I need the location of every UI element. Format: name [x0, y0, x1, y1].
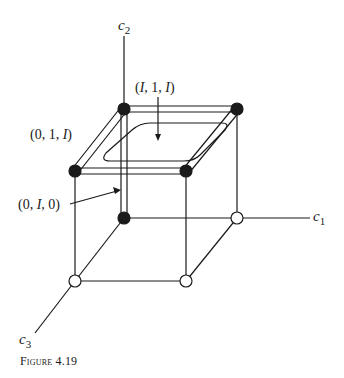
double-edge-right-top-depth — [183, 107, 240, 173]
c3-axis-line — [35, 281, 75, 333]
figure-caption: Figure 4.19 — [20, 354, 77, 369]
double-edge-left-top-depth — [72, 107, 127, 173]
double-edge-front-top — [75, 168, 186, 174]
c2-axis-label: c2 — [118, 17, 130, 36]
c1-axis-label: c1 — [313, 208, 325, 227]
node-back-bottom-right — [231, 212, 243, 224]
node-back-bottom-left — [118, 212, 130, 224]
back-vertical-arrow-shaft — [70, 191, 117, 204]
cube-diagram: c2 c1 c3 (I, 1, I) (0, 1, I) (0, I, 0) — [0, 0, 344, 378]
label-back-vertical-edge: (0, I, 0) — [18, 197, 60, 213]
c3-axis-label: c3 — [19, 331, 32, 350]
node-front-bottom-right — [180, 275, 192, 287]
top-face-arrowhead — [155, 134, 161, 141]
node-back-top-right — [231, 103, 243, 115]
back-vertical-arrowhead — [113, 187, 121, 194]
edge-bottom-left-depth — [75, 218, 124, 281]
node-front-top-left — [69, 165, 81, 177]
double-edge-back-left-vertical — [121, 109, 127, 218]
top-face-cycle — [104, 123, 227, 161]
node-front-bottom-left — [69, 275, 81, 287]
node-back-top-left — [118, 103, 130, 115]
double-edge-back-top — [124, 106, 237, 112]
label-left-top-edge: (0, 1, I) — [30, 127, 72, 143]
label-top-face: (I, 1, I) — [135, 80, 175, 96]
node-front-top-right — [180, 165, 192, 177]
edge-bottom-right-depth — [186, 218, 237, 281]
